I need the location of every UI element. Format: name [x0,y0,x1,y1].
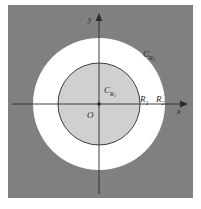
radius-label-r1-index: 1 [146,100,149,106]
y-axis-label: y [87,15,92,24]
radius-label-r2-index: 2 [162,100,165,106]
x-axis-label: x [176,107,181,116]
origin-point [97,102,101,106]
origin-label: O [87,110,94,120]
inner-circle-label-index: 1 [114,93,116,98]
concentric-circles-figure: x y O CR2 CR1 R1 R2 [0,0,201,209]
figure-container: x y O CR2 CR1 R1 R2 [0,0,201,209]
